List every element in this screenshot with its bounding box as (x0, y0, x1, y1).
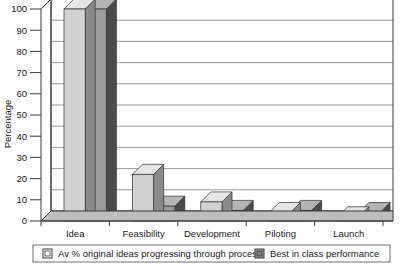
legend-item-label: Best in class performance (270, 248, 379, 259)
floor-plane (41, 211, 393, 221)
chart-legend: Av % original ideas progressing through … (33, 245, 390, 262)
x-axis-category-label: Development (184, 228, 240, 239)
y-axis-tick-marks (30, 9, 41, 221)
y-axis-title: Percentage (2, 100, 13, 149)
y-axis-tick-label: 80 (16, 46, 27, 57)
legend-swatch-inner (257, 251, 262, 256)
x-axis-category-label: Piloting (265, 228, 296, 239)
y-axis-tick-label: 70 (16, 67, 27, 78)
x-axis-category-labels: IdeaFeasibilityDevelopmentPilotingLaunch (66, 228, 364, 239)
x-axis-category-label: Idea (66, 228, 85, 239)
x-axis-category-label: Feasibility (122, 228, 164, 239)
y-axis-tick-label: 90 (16, 25, 27, 36)
y-axis-tick-label: 40 (16, 131, 27, 142)
y-axis-tick-label: 60 (16, 88, 27, 99)
y-axis-tick-label: 100 (11, 3, 27, 14)
legend-item[interactable]: Av % original ideas progressing through … (43, 248, 262, 259)
bar-side-face (85, 0, 95, 221)
y-axis-tick-label: 30 (16, 152, 27, 163)
bar-side-face (106, 0, 116, 221)
y-axis-tick-label: 0 (22, 215, 27, 226)
x-axis-category-label: Launch (333, 228, 364, 239)
bars-layer (64, 0, 390, 221)
legend-swatch-inner (45, 251, 50, 256)
bar-3d (64, 0, 95, 221)
bar-chart-figure: Percentage 0102030405060708090100 IdeaFe… (0, 0, 403, 266)
y-axis-tick-label: 10 (16, 194, 27, 205)
y-axis-tick-labels: 0102030405060708090100 (11, 3, 27, 226)
axis-floor (41, 211, 393, 221)
chart-canvas: Percentage 0102030405060708090100 IdeaFe… (0, 0, 403, 266)
legend-item-label: Av % original ideas progressing through … (58, 248, 262, 259)
legend-item[interactable]: Best in class performance (255, 248, 379, 259)
x-axis-tick-marks (41, 221, 383, 226)
y-axis-tick-label: 50 (16, 109, 27, 120)
y-axis-title-text: Percentage (2, 100, 13, 149)
bar-front-face (64, 9, 85, 221)
y-axis-tick-label: 20 (16, 173, 27, 184)
